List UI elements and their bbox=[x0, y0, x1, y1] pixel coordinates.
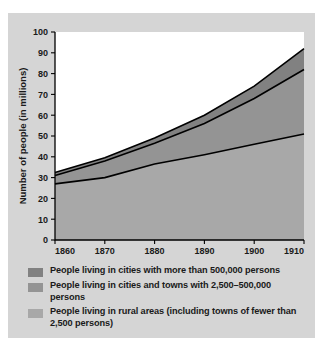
svg-text:100: 100 bbox=[33, 27, 48, 37]
plot-area-container: 0102030405060708090100186018701880189019… bbox=[8, 13, 315, 263]
chart-legend: People living in cities with more than 5… bbox=[28, 265, 308, 332]
stacked-area-chart: 0102030405060708090100186018701880189019… bbox=[8, 13, 315, 263]
legend-item: People living in cities and towns with 2… bbox=[28, 280, 308, 303]
svg-text:30: 30 bbox=[38, 173, 48, 183]
legend-item: People living in cities with more than 5… bbox=[28, 265, 308, 277]
chart-figure-panel: 0102030405060708090100186018701880189019… bbox=[8, 13, 315, 338]
svg-text:20: 20 bbox=[38, 194, 48, 204]
svg-text:1900: 1900 bbox=[244, 246, 264, 256]
svg-text:40: 40 bbox=[38, 152, 48, 162]
svg-text:1890: 1890 bbox=[194, 246, 214, 256]
legend-label-large-cities: People living in cities with more than 5… bbox=[50, 265, 280, 277]
legend-item: People living in rural areas (including … bbox=[28, 306, 308, 329]
svg-text:1860: 1860 bbox=[55, 246, 75, 256]
svg-text:1910: 1910 bbox=[284, 246, 304, 256]
svg-text:60: 60 bbox=[38, 111, 48, 121]
svg-text:80: 80 bbox=[38, 69, 48, 79]
legend-swatch-rural bbox=[28, 309, 43, 318]
svg-text:70: 70 bbox=[38, 90, 48, 100]
svg-text:90: 90 bbox=[38, 48, 48, 58]
legend-swatch-small-cities bbox=[28, 283, 43, 292]
legend-label-small-cities: People living in cities and towns with 2… bbox=[50, 280, 308, 303]
svg-text:1880: 1880 bbox=[145, 246, 165, 256]
svg-text:10: 10 bbox=[38, 215, 48, 225]
legend-swatch-large-cities bbox=[28, 268, 43, 277]
legend-label-rural: People living in rural areas (including … bbox=[50, 306, 308, 329]
svg-text:Number of people (in millions): Number of people (in millions) bbox=[17, 68, 28, 205]
svg-text:1870: 1870 bbox=[95, 246, 115, 256]
svg-text:0: 0 bbox=[43, 235, 48, 245]
svg-text:50: 50 bbox=[38, 131, 48, 141]
